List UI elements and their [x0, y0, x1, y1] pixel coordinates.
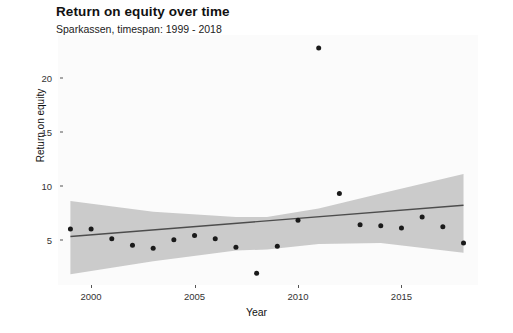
- x-tick-label: 2005: [184, 291, 205, 302]
- x-tick-mark: [91, 285, 92, 288]
- x-tick-label: 2015: [391, 291, 412, 302]
- x-tick-mark: [401, 285, 402, 288]
- x-tick-mark: [298, 285, 299, 288]
- x-axis-label: Year: [0, 306, 513, 318]
- x-tick-label: 2000: [81, 291, 102, 302]
- x-axis: 2000200520102015: [0, 0, 513, 333]
- x-tick-mark: [195, 285, 196, 288]
- x-tick-label: 2010: [287, 291, 308, 302]
- chart-root: Return on equity over time Sparkassen, t…: [0, 0, 513, 333]
